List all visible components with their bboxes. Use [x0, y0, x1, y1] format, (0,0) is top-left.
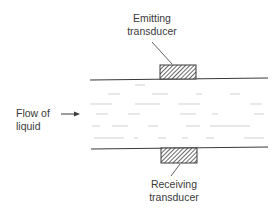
flow-label-line1: Flow of: [16, 107, 50, 120]
liquid-flow-dashes: [90, 85, 264, 138]
receiving-label-line2: transducer: [138, 191, 210, 204]
receiving-leader-line: [171, 164, 180, 176]
emitting-label-line1: Emitting: [116, 12, 188, 25]
receiving-transducer: [161, 148, 197, 163]
receiving-label-line1: Receiving: [138, 178, 210, 191]
emitting-leader-line: [152, 42, 172, 64]
emitting-transducer: [160, 65, 196, 79]
flow-of-liquid-label: Flow of liquid: [16, 107, 50, 133]
emitting-label-line2: transducer: [116, 25, 188, 38]
flow-label-line2: liquid: [16, 120, 50, 133]
receiving-transducer-label: Receiving transducer: [138, 178, 210, 204]
flow-arrow-icon: [61, 112, 80, 117]
emitting-transducer-label: Emitting transducer: [116, 12, 188, 38]
